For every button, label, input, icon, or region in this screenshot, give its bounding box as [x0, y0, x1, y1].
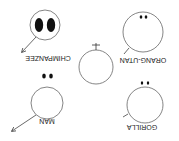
sperm-comparison-diagram: CHIMPANZEE ORANG-UTAN MAN GORILLA	[0, 0, 179, 141]
man-label: MAN	[39, 118, 55, 125]
chimpanzee-label: CHIMPANZEE	[25, 55, 71, 62]
orang-utan-sperm: ORANG-UTAN	[120, 12, 167, 64]
egg-female-symbol	[79, 43, 113, 84]
gorilla-sperm: GORILLA	[123, 81, 163, 131]
chimpanzee-sperm: CHIMPANZEE	[22, 10, 71, 62]
gorilla-label: GORILLA	[127, 124, 158, 131]
orang-utan-label: ORANG-UTAN	[120, 57, 167, 64]
man-sperm: MAN	[12, 74, 63, 132]
